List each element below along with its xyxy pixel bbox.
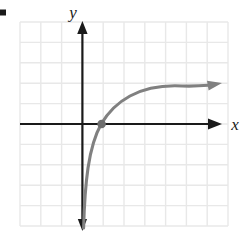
logarithmic-curve [84, 85, 209, 228]
x-axis-arrowhead-right [208, 119, 222, 130]
curve-arrowhead-right [207, 81, 222, 91]
item-bullet-marker [0, 10, 6, 16]
graph-figure: y x [0, 0, 250, 237]
axes [20, 21, 222, 231]
coordinate-plane-svg: y x [0, 0, 250, 237]
x-axis-label: x [230, 115, 239, 134]
y-axis-arrowhead-top [77, 21, 87, 34]
marked-point [97, 120, 106, 129]
y-axis-label: y [67, 3, 77, 22]
